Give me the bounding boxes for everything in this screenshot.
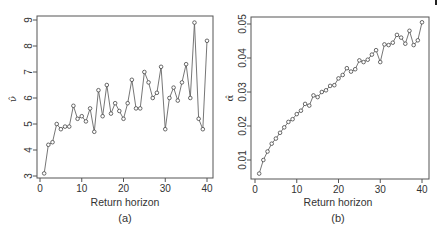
data-point — [278, 131, 282, 135]
data-point — [262, 158, 266, 162]
data-point — [337, 77, 341, 81]
figure: 3456789 010203040 Return horizon (a) ν̂ … — [0, 0, 441, 235]
data-point — [168, 96, 172, 100]
data-point — [349, 70, 353, 74]
data-point — [391, 41, 395, 45]
data-point — [374, 48, 378, 52]
data-point — [412, 43, 416, 47]
data-point — [118, 109, 122, 113]
data-point — [176, 99, 180, 103]
data-point — [378, 60, 382, 64]
data-point — [159, 65, 163, 69]
chart-panel-b: 0.010.020.030.040.05 010203040 Return ho… — [224, 14, 429, 224]
data-point — [324, 89, 328, 93]
data-point — [387, 43, 391, 47]
data-point — [163, 127, 167, 131]
data-point — [122, 117, 126, 121]
data-point — [197, 117, 201, 121]
x-tick-label: 30 — [160, 183, 172, 194]
data-point — [274, 137, 278, 141]
data-point — [143, 70, 147, 74]
data-point — [151, 96, 155, 100]
data-point — [67, 125, 71, 129]
data-point — [63, 125, 67, 129]
data-point — [416, 39, 420, 43]
data-point — [88, 107, 92, 111]
data-point — [420, 21, 424, 25]
data-point — [105, 83, 109, 87]
x-tick-label: 30 — [375, 184, 387, 195]
y-tick-label: 6 — [23, 95, 34, 101]
data-point — [92, 130, 96, 134]
series-line — [44, 23, 207, 174]
x-axis-a: 010203040 — [37, 178, 213, 194]
y-tick-label: 7 — [23, 69, 34, 75]
data-point — [257, 172, 261, 176]
data-point — [193, 21, 197, 25]
data-point — [328, 84, 332, 88]
data-point — [404, 42, 408, 46]
x-tick-label: 20 — [118, 183, 130, 194]
data-point — [270, 142, 274, 146]
series-line — [259, 22, 422, 173]
series-a — [42, 21, 208, 175]
x-axis-b: 010203040 — [252, 179, 428, 195]
data-point — [408, 29, 412, 33]
panel-label-a: (a) — [118, 212, 131, 224]
y-tick-label: 0.05 — [237, 14, 248, 34]
x-tick-label: 10 — [291, 184, 303, 195]
data-point — [126, 101, 130, 105]
series-b — [257, 21, 423, 176]
data-point — [80, 114, 84, 118]
data-point — [189, 96, 193, 100]
data-point — [383, 43, 387, 47]
data-point — [205, 39, 209, 43]
y-tick-label: 0.01 — [237, 150, 248, 170]
y-axis-title-a: ν̂ — [7, 96, 18, 102]
y-axis-title-b: α̂ — [224, 94, 235, 101]
data-point — [295, 112, 299, 116]
x-tick-label: 0 — [37, 183, 43, 194]
x-axis-title-b: Return horizon — [304, 196, 373, 208]
y-tick-label: 0.04 — [237, 48, 248, 68]
data-point — [358, 59, 362, 63]
y-tick-label: 5 — [23, 121, 34, 127]
data-point — [72, 104, 76, 108]
y-tick-label: 8 — [23, 43, 34, 49]
data-point — [333, 83, 337, 87]
data-point — [370, 53, 374, 57]
page-edge-mark — [435, 0, 437, 5]
data-point — [180, 81, 184, 85]
y-tick-label: 0.03 — [237, 82, 248, 102]
y-tick-label: 4 — [23, 147, 34, 153]
data-point — [138, 107, 142, 111]
data-point — [134, 107, 138, 111]
data-point — [155, 91, 159, 95]
data-point — [282, 126, 286, 130]
data-point — [320, 90, 324, 94]
data-point — [399, 36, 403, 40]
data-point — [366, 58, 370, 62]
data-point — [59, 127, 63, 131]
chart-panel-a: 3456789 010203040 Return horizon (a) ν̂ — [7, 16, 213, 224]
x-tick-label: 40 — [201, 183, 213, 194]
data-point — [101, 114, 105, 118]
x-tick-label: 40 — [416, 184, 428, 195]
data-point — [312, 94, 316, 98]
data-point — [307, 104, 311, 108]
y-tick-label: 3 — [23, 173, 34, 179]
data-point — [266, 150, 270, 154]
y-tick-label: 9 — [23, 17, 34, 23]
data-point — [84, 120, 88, 124]
data-point — [76, 117, 80, 121]
data-point — [303, 102, 307, 106]
y-tick-label: 0.02 — [237, 116, 248, 136]
y-axis-a: 3456789 — [23, 17, 38, 179]
panel-label-b: (b) — [331, 212, 344, 224]
plot-frame-a — [37, 16, 213, 178]
data-point — [345, 66, 349, 70]
data-point — [362, 60, 366, 64]
data-point — [147, 81, 151, 85]
data-point — [287, 120, 291, 124]
data-point — [97, 88, 101, 92]
